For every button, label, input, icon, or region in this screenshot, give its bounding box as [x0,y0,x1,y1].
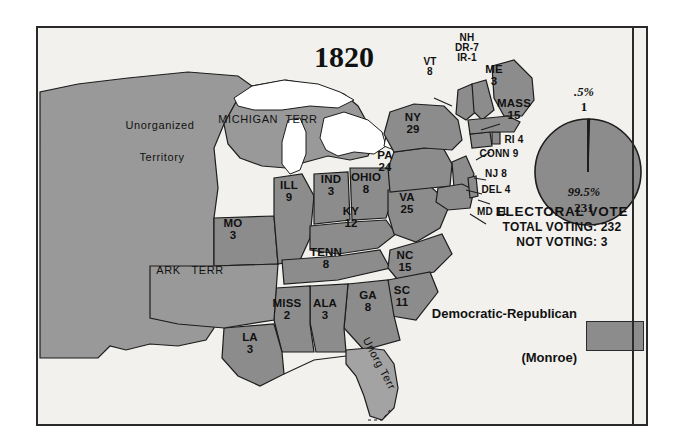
state-label-ill: ILL 9 [272,180,306,203]
map-plate: 1820 ME 3 NH DR-7 IR-1 VT 8 MASS 15 RI 4… [36,26,648,426]
electoral-vote-block: ELECTORAL VOTE TOTAL VOTING: 232 NOT VOT… [474,204,648,249]
state-label-la: LA 3 [234,332,266,355]
territory-label-arkansas: ARK TERR [134,265,246,276]
state-label-pa: PA 24 [368,150,402,173]
state-label-ny: NY 29 [394,112,432,135]
state-ct [470,132,492,148]
gulf-coast-outline [284,356,346,374]
state-label-mo: MO 3 [216,218,250,241]
legend-label-dem-rep-line2: (Monroe) [432,351,577,366]
territory-label-michigan: MICHIGAN TERR [202,114,334,125]
state-label-tenn: TENN 8 [302,247,350,270]
legend-swatch-dem-rep [586,321,644,351]
state-label-ala: ALA 3 [306,298,344,321]
territory-label-unorganized: Unorganized [106,120,214,131]
territory-label-territory: Territory [114,152,210,163]
legend-item-ind-rep: Independent Republican (J. Q. Adams) [382,401,644,426]
state-label-nj: NJ 8 [474,169,518,179]
pie-major-percent: 99.5% [548,186,620,199]
electoral-vote-heading: ELECTORAL VOTE [474,204,648,219]
electoral-map-figure: 1820 ME 3 NH DR-7 IR-1 VT 8 MASS 15 RI 4… [0,0,680,448]
pie-minor-percent: .5% [554,86,614,99]
not-voting-line: NOT VOTING: 3 [474,235,648,249]
state-label-ind: IND 3 [312,174,350,197]
legend-item-dem-rep: Democratic-Republican (Monroe) [382,278,644,394]
legend-label-dem-rep-line1: Democratic-Republican [432,307,577,322]
map-legend: Democratic-Republican (Monroe) Independe… [382,278,644,426]
state-label-vt: VT 8 [414,57,446,77]
state-label-miss: MISS 2 [264,298,310,321]
state-label-del: DEL 4 [472,185,520,195]
state-label-ohio: OHIO 8 [344,172,388,195]
panel-divider [632,28,634,426]
lake-superior [234,80,354,110]
state-label-va: VA 25 [390,192,424,215]
state-label-conn: CONN 9 [468,149,530,159]
map-title: 1820 [314,40,374,74]
pie-minor-value: 1 [554,100,614,114]
total-voting-line: TOTAL VOTING: 232 [474,220,648,234]
state-label-nc: NC 15 [388,250,422,273]
state-label-ga: GA 8 [352,290,384,313]
state-label-me: ME 3 [474,64,514,87]
state-label-nh: NH DR-7 IR-1 [444,33,490,64]
state-label-ky: KY 12 [334,206,368,229]
